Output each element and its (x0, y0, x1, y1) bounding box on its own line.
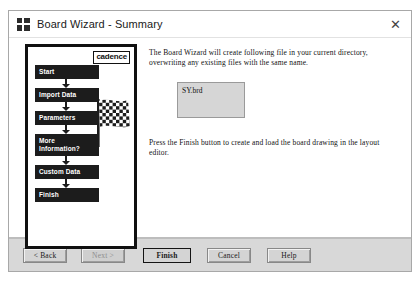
finish-button[interactable]: Finish (143, 248, 191, 263)
grid-icon (17, 18, 30, 31)
checkered-flag-icon (94, 93, 136, 149)
next-button: Next > (81, 248, 125, 263)
created-files-list[interactable]: SY.brd (177, 82, 245, 118)
flow-arrow (35, 179, 99, 188)
summary-paragraph-1: The Board Wizard will create following f… (149, 48, 401, 68)
flow-step-custom-data: Custom Data (35, 165, 99, 179)
flow-arrow (35, 156, 99, 165)
dialog-body: cadence Start Import Data Parameters Mor… (9, 38, 411, 237)
cadence-logo: cadence (93, 51, 130, 64)
flow-arrow (35, 125, 99, 134)
close-icon[interactable]: ✕ (383, 13, 407, 35)
flow-step-import-data: Import Data (35, 88, 99, 102)
flow-step-parameters: Parameters (35, 111, 99, 125)
flow-arrow (35, 79, 99, 88)
flow-arrow (35, 102, 99, 111)
list-item[interactable]: SY.brd (182, 86, 240, 95)
summary-paragraph-2: Press the Finish button to create and lo… (149, 138, 401, 158)
help-button[interactable]: Help (267, 248, 311, 263)
wizard-window: Board Wizard - Summary ✕ cadence Start I… (8, 10, 412, 272)
flow-step-finish: Finish (35, 188, 99, 202)
back-button[interactable]: < Back (23, 248, 67, 263)
window-title: Board Wizard - Summary (37, 18, 383, 30)
flow-step-start: Start (35, 65, 99, 79)
flow-step-more-information: More Information? (35, 134, 99, 156)
wizard-flowchart: Start Import Data Parameters More Inform… (35, 65, 99, 202)
summary-content: The Board Wizard will create following f… (149, 48, 401, 158)
wizard-graphic-panel: cadence Start Import Data Parameters Mor… (25, 44, 137, 249)
cancel-button[interactable]: Cancel (207, 248, 251, 263)
title-bar: Board Wizard - Summary ✕ (9, 11, 411, 38)
